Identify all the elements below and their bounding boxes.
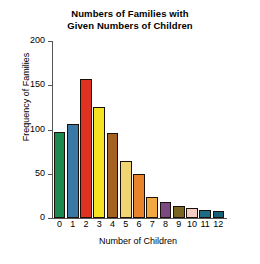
- x-axis-ticks: 0123456789101112: [53, 219, 225, 235]
- y-axis-tick-label: 100: [30, 123, 45, 136]
- bar: [67, 124, 79, 218]
- bar: [199, 210, 211, 218]
- y-axis-tick-mark: [48, 85, 52, 86]
- y-axis-tick-label: 150: [30, 78, 45, 91]
- x-axis-tick-label: 1: [66, 219, 79, 229]
- y-axis-tick-label: 50: [35, 167, 45, 180]
- x-axis-tick-label: 0: [53, 219, 66, 229]
- x-axis-tick-label: 4: [106, 219, 119, 229]
- x-axis-label: Number of Children: [38, 236, 238, 246]
- bar: [146, 197, 158, 218]
- x-axis-tick-label: 7: [146, 219, 159, 229]
- x-axis-tick-label: 5: [119, 219, 132, 229]
- y-axis-tick: 150: [0, 85, 52, 86]
- x-axis-tick-label: 11: [199, 219, 212, 229]
- bar: [107, 133, 119, 218]
- bar: [120, 161, 132, 218]
- x-axis-tick-label: 3: [93, 219, 106, 229]
- x-axis-tick-label: 2: [79, 219, 92, 229]
- bar: [93, 107, 105, 219]
- y-axis-tick: 200: [0, 41, 52, 42]
- y-axis-tick-mark: [48, 41, 52, 42]
- y-axis-tick-mark: [48, 174, 52, 175]
- y-axis-tick-mark: [48, 130, 52, 131]
- chart-title: Numbers of Families with Given Numbers o…: [0, 8, 260, 32]
- bar: [186, 208, 198, 218]
- y-axis-tick: 50: [0, 174, 52, 175]
- x-axis-tick-label: 12: [212, 219, 225, 229]
- chart-title-line-2: Given Numbers of Children: [0, 20, 260, 32]
- x-axis-tick-label: 9: [172, 219, 185, 229]
- bar-chart-figure: Numbers of Families with Given Numbers o…: [0, 0, 260, 264]
- bar: [54, 132, 66, 218]
- y-axis-tick: 100: [0, 130, 52, 131]
- chart-title-line-1: Numbers of Families with: [0, 8, 260, 20]
- bar: [80, 79, 92, 218]
- y-axis-tick-label: 200: [30, 34, 45, 47]
- bar: [213, 211, 225, 218]
- bars-group: [53, 41, 225, 218]
- y-axis-tick-label: 0: [40, 211, 45, 224]
- y-axis-tick-mark: [48, 218, 52, 219]
- x-axis-tick-label: 8: [159, 219, 172, 229]
- bar: [173, 206, 185, 218]
- x-axis-tick-label: 6: [132, 219, 145, 229]
- bar: [133, 174, 145, 218]
- y-axis-label: Frequency of Families: [21, 27, 31, 167]
- y-axis-tick: 0: [0, 218, 52, 219]
- bar: [160, 202, 172, 218]
- x-axis-tick-label: 10: [185, 219, 198, 229]
